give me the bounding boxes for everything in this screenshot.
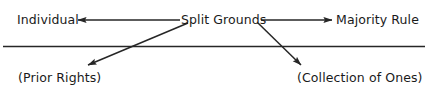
node-label-majority-rule: Majority Rule — [336, 13, 419, 27]
node-label-prior-rights: (Prior Rights) — [18, 71, 101, 85]
node-label-individual: Individual — [17, 13, 79, 27]
arrow-split-grounds-to-collection-of-ones — [258, 23, 301, 65]
node-label-collection-of-ones: (Collection of Ones) — [297, 71, 423, 85]
arrow-split-grounds-to-prior-rights — [88, 23, 188, 65]
diagram-canvas: Individual Split Grounds Majority Rule (… — [0, 0, 429, 95]
node-label-split-grounds: Split Grounds — [181, 13, 266, 27]
